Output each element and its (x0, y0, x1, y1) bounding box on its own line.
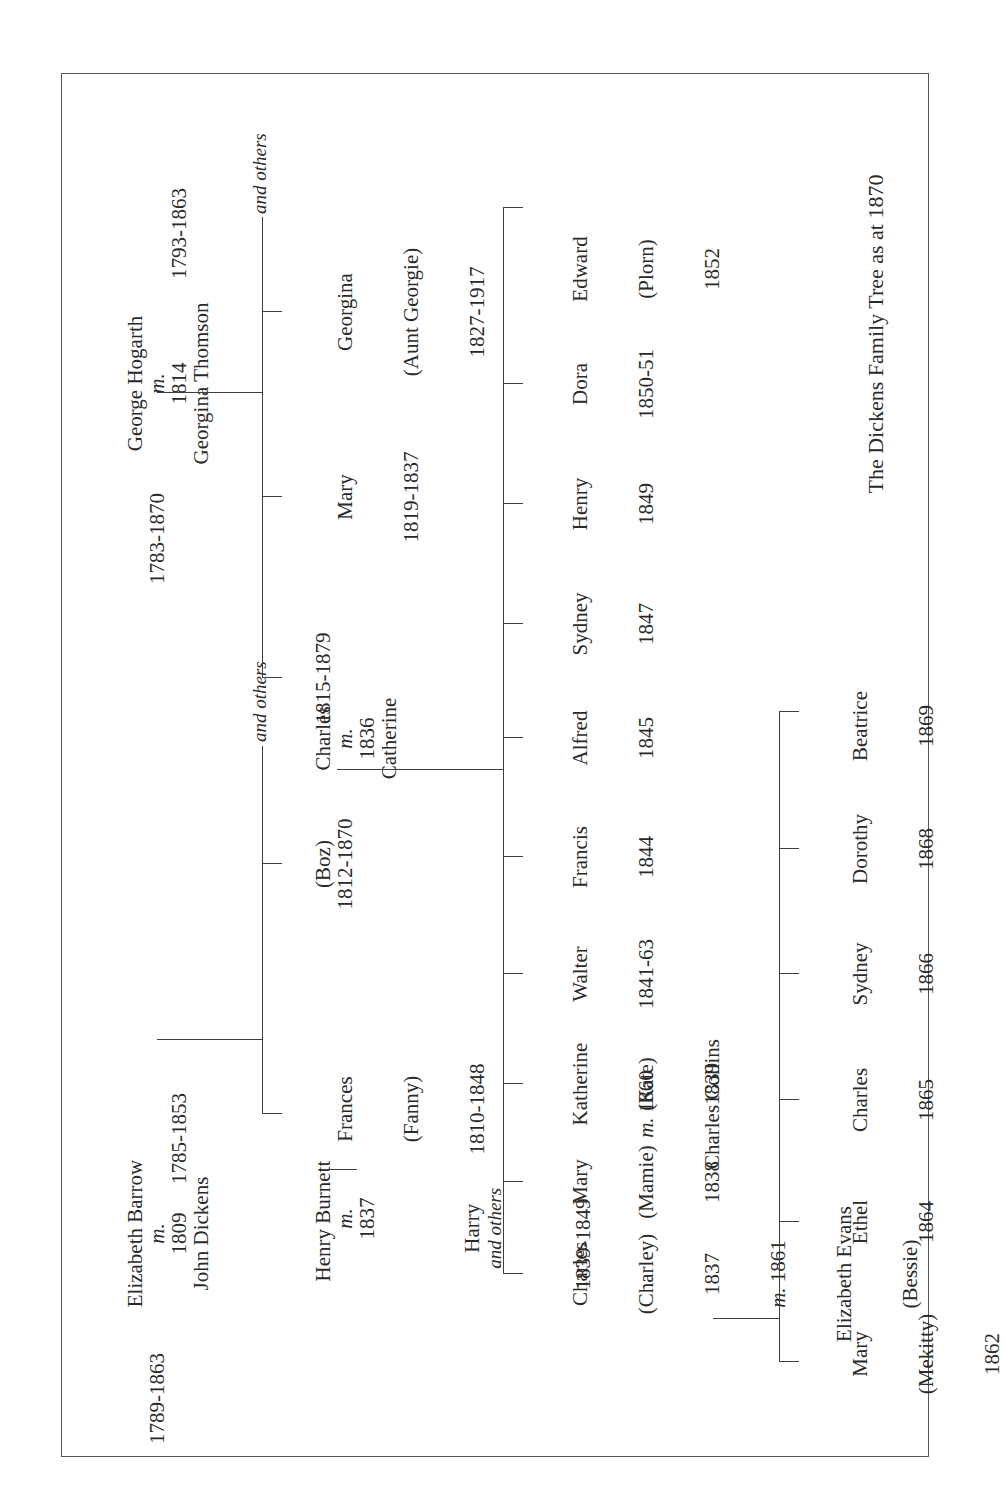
georgina-nickname: (Aunt Georgie) (400, 248, 422, 377)
child-dates: 1849 (635, 478, 657, 530)
person-mary-hogarth: Mary 1819-1837 (290, 452, 466, 543)
child-dates: 1850-51 (635, 349, 657, 419)
child-edward: Edward (Plorn) 1852 (525, 236, 767, 301)
child-nickname: (Plorn) (635, 236, 657, 301)
connector-hogarth-children-bar (262, 217, 263, 678)
hogarth-siblings-others: and others (249, 133, 271, 214)
husband-dates: 1785-1853 (168, 1093, 190, 1184)
marriage-year: 1860 (634, 1070, 658, 1112)
connector-georgina-tick (262, 311, 282, 312)
connector-tick (503, 1181, 523, 1182)
connector-frances-tick (262, 1113, 282, 1114)
harry-and-others: and others (484, 1188, 505, 1269)
child-dates: 1847 (635, 593, 657, 656)
connector-tick (779, 848, 799, 849)
grandchild-name: Sydney (849, 943, 871, 1006)
connector-children-bar (503, 208, 504, 1274)
grandchild-name: Charles (849, 1068, 871, 1132)
marriage-prefix: m. (333, 1208, 357, 1228)
child-name: Francis (569, 826, 591, 888)
connector-tick (503, 623, 523, 624)
grandchild-ethel: Ethel 1864 (805, 1200, 981, 1244)
frances-name: Frances (334, 1064, 356, 1155)
connector-tick (503, 207, 523, 208)
connector-tick (503, 1273, 523, 1274)
child-name: Edward (569, 236, 591, 301)
grandchild-dates: 1868 (915, 814, 937, 884)
kate-marriage: m. 1860 Charles Collins (591, 1039, 767, 1169)
grandchild-dates: 1865 (915, 1068, 937, 1132)
dickens-parents-dates: 1789-1863 1785-1853 (124, 1034, 212, 1454)
wife-dates: 1789-1863 (146, 1353, 168, 1444)
child-francis: Francis 1844 (525, 826, 701, 888)
child-nickname: (Charley) (635, 1206, 657, 1342)
connector-tick (503, 856, 523, 857)
child-name: Henry (569, 478, 591, 530)
wife-dates: 1793-1863 (168, 188, 190, 279)
child-name: Charles (569, 1206, 591, 1342)
connector-tick (503, 973, 523, 974)
mary-dates: 1819-1837 (400, 452, 422, 543)
child-name: Dora (569, 349, 591, 419)
child-dates: 1852 (701, 236, 723, 301)
marriage-prefix: m. (766, 1287, 790, 1307)
connector-charles-catherine-marriage (337, 769, 503, 770)
connector-tick (779, 1361, 799, 1362)
child-dates: 1844 (635, 826, 657, 888)
connector-dickens-children-bar (262, 746, 263, 1114)
charles-nickname: (Boz) (312, 840, 334, 888)
connector-burnett-marriage (330, 1169, 357, 1170)
connector-tick (503, 383, 523, 384)
grandchild-charles: Charles 1865 (805, 1068, 981, 1132)
grandchild-name: Ethel (849, 1200, 871, 1244)
child-name: Mary (569, 1145, 591, 1218)
child-henry: Henry 1849 (525, 478, 701, 530)
spouse-name: Charles Collins (701, 1039, 723, 1169)
marriage-prefix: m. (634, 1117, 658, 1137)
connector-tick (779, 1221, 799, 1222)
catherine-name: Catherine (377, 698, 401, 780)
georgina-dates: 1827-1917 (466, 248, 488, 377)
child-name: Sydney (569, 593, 591, 656)
hogarth-parents-dates: 1783-1870 1793-1863 (124, 164, 212, 624)
grandchild-dates: 1862 (981, 1314, 1003, 1394)
frances-dates: 1810-1848 (466, 1064, 488, 1155)
mary-name: Mary (334, 452, 356, 543)
person-frances: Frances (Fanny) 1810-1848 (290, 1064, 532, 1155)
connector-tick (779, 711, 799, 712)
connector-grandchildren-bar (779, 712, 780, 1362)
connector-tick (503, 1083, 523, 1084)
grandchild-dates: 1866 (915, 943, 937, 1006)
connector-mary-tick (262, 496, 282, 497)
georgina-name: Georgina (334, 248, 356, 377)
marriage-year: 1836 (355, 718, 379, 760)
burnett-name: Henry Burnett (311, 1161, 335, 1282)
child-dates: 1845 (635, 711, 657, 766)
connector-tick (503, 737, 523, 738)
connector-tick (503, 503, 523, 504)
grandchild-beatrice: Beatrice 1869 (805, 691, 981, 761)
connector-tick (779, 1099, 799, 1100)
child-dates: 1841-63 (635, 939, 657, 1009)
connector-tick (779, 973, 799, 974)
grandchild-nickname: (Mekitty) (915, 1314, 937, 1394)
burnett-marriage: Henry Burnett m. 1837 (290, 1156, 400, 1303)
grandchild-sydney: Sydney 1866 (805, 943, 981, 1006)
child-dates: 1837 (701, 1206, 723, 1342)
frances-nickname: (Fanny) (400, 1064, 422, 1155)
child-alfred: Alfred 1845 (525, 711, 701, 766)
marriage-year: 1861 (766, 1240, 790, 1282)
connector-dickens-marriage (157, 1039, 262, 1040)
husband-dates: 1783-1870 (146, 493, 168, 584)
harry-name: Harry (460, 1204, 484, 1253)
child-name: Katherine (569, 1043, 591, 1126)
grandchild-name: Mary (849, 1314, 871, 1394)
child-name: Walter (569, 939, 591, 1009)
marriage-year: 1837 (355, 1198, 379, 1240)
connector-charley-marriage (713, 1318, 779, 1319)
grandchild-name: Beatrice (849, 691, 871, 761)
child-walter: Walter 1841-63 (525, 939, 701, 1009)
child-dora: Dora 1850-51 (525, 349, 701, 419)
connector-catherine-tick (262, 677, 282, 678)
diagram-title: The Dickens Family Tree as at 1870 (865, 175, 887, 494)
